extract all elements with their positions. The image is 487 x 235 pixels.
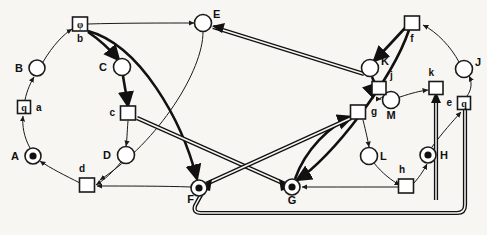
place-label-C: C — [99, 61, 107, 73]
transition-glyph-a: q — [21, 102, 27, 113]
token-dot-H — [424, 151, 431, 158]
arc-J-to-f — [423, 25, 459, 62]
arc-F-to-d — [97, 186, 191, 187]
place-L[interactable] — [361, 148, 378, 165]
arc-e-to-J — [467, 76, 471, 96]
place-label-J: J — [475, 56, 481, 68]
place-label-A: A — [11, 150, 19, 162]
transition-b[interactable]: φ — [73, 17, 88, 31]
token-dot-F — [195, 184, 202, 191]
place-circle-C[interactable] — [114, 59, 131, 76]
place-G[interactable] — [284, 179, 300, 195]
transition-label-h: h — [399, 164, 405, 175]
transition-glyph-e: q — [461, 98, 467, 109]
arc-c-to-D — [126, 121, 128, 146]
place-circle-J[interactable] — [456, 61, 473, 78]
place-label-K: K — [381, 55, 389, 67]
arc-h-to-H — [414, 164, 427, 183]
place-K[interactable] — [362, 60, 379, 77]
transition-label-e: e — [446, 97, 452, 108]
transition-e[interactable]: q — [458, 97, 471, 110]
place-circle-D[interactable] — [118, 147, 135, 164]
transition-label-k: k — [428, 67, 434, 78]
place-circle-K[interactable] — [362, 60, 379, 77]
transition-square-h[interactable] — [399, 179, 414, 193]
place-label-H: H — [440, 149, 448, 161]
transition-label-d: d — [79, 163, 85, 174]
petri-net-svg: qφq ABCDEFGHJKLMabcdefghjk — [0, 0, 487, 235]
arc-layer-thin — [23, 23, 471, 187]
place-circle-B[interactable] — [29, 60, 45, 76]
arc-f-to-K — [374, 28, 405, 61]
place-circle-E[interactable] — [195, 15, 212, 32]
transition-label-c: c — [109, 107, 115, 118]
place-label-M: M — [386, 109, 395, 121]
place-label-E: E — [213, 8, 220, 20]
transition-j[interactable] — [372, 82, 386, 95]
place-label-F: F — [187, 193, 194, 205]
transition-label-f: f — [410, 33, 414, 44]
transition-label-j: j — [389, 70, 393, 81]
arc-M-to-k — [400, 90, 428, 97]
place-A[interactable] — [25, 148, 41, 164]
transition-c[interactable] — [121, 106, 136, 120]
transition-label-a: a — [36, 102, 42, 113]
arc-b-to-E — [88, 23, 194, 24]
transition-label-b: b — [77, 33, 83, 44]
arc-c-to-G-inner — [137, 118, 285, 184]
transition-a[interactable]: q — [18, 101, 31, 114]
place-D[interactable] — [118, 147, 135, 164]
place-C[interactable] — [114, 59, 131, 76]
transition-f[interactable] — [405, 16, 420, 30]
transition-d[interactable] — [80, 178, 95, 192]
token-dot-A — [29, 152, 36, 159]
arc-a-to-B — [25, 77, 34, 100]
place-E[interactable] — [195, 15, 212, 32]
transition-square-d[interactable] — [80, 178, 95, 192]
place-circle-L[interactable] — [361, 148, 378, 165]
transition-h[interactable] — [399, 179, 414, 193]
place-B[interactable] — [29, 60, 45, 76]
token-dot-G — [288, 183, 295, 190]
place-label-B: B — [15, 62, 23, 74]
transition-k[interactable] — [429, 82, 443, 95]
arc-g-to-L — [363, 120, 369, 147]
transition-square-g[interactable] — [351, 105, 366, 119]
place-label-D: D — [103, 149, 111, 161]
transition-square-k[interactable] — [429, 82, 443, 95]
transition-g[interactable] — [351, 105, 366, 119]
transition-square-f[interactable] — [405, 16, 420, 30]
arc-C-to-c — [123, 76, 128, 106]
transition-square-c[interactable] — [121, 106, 136, 120]
transition-glyph-b: φ — [77, 19, 83, 30]
place-H[interactable] — [420, 147, 436, 163]
arc-B-to-b — [43, 29, 72, 62]
arc-G-to-g — [295, 117, 352, 179]
place-label-G: G — [288, 194, 297, 206]
arc-A-to-a — [23, 116, 30, 148]
transition-label-g: g — [371, 106, 377, 117]
arc-layer-double — [137, 23, 470, 213]
place-label-L: L — [380, 150, 387, 162]
place-J[interactable] — [456, 61, 473, 78]
arc-L-to-h — [374, 163, 400, 185]
arc-d-to-A — [40, 161, 80, 183]
transition-square-j[interactable] — [372, 82, 386, 95]
petri-net-canvas: qφq ABCDEFGHJKLMabcdefghjk — [0, 0, 487, 235]
arc-K-to-E-inner — [213, 27, 364, 74]
